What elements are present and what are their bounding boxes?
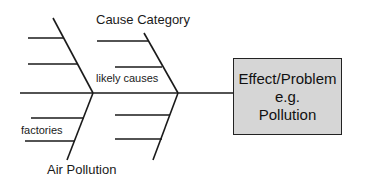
effect-line-3: Pollution	[259, 106, 317, 124]
right-lower-bone	[153, 93, 178, 160]
effect-line-2: e.g.	[275, 88, 300, 106]
effect-problem-box: Effect/Problem e.g. Pollution	[233, 58, 342, 135]
cause-category-label: Cause Category	[96, 12, 190, 27]
air-pollution-label: Air Pollution	[47, 162, 116, 177]
left-lower-bone	[67, 93, 93, 160]
factories-label: factories	[21, 124, 63, 136]
right-upper-bone	[144, 33, 178, 93]
left-upper-bone	[53, 18, 93, 93]
effect-line-1: Effect/Problem	[238, 70, 336, 88]
likely-causes-label: likely causes	[96, 72, 158, 84]
